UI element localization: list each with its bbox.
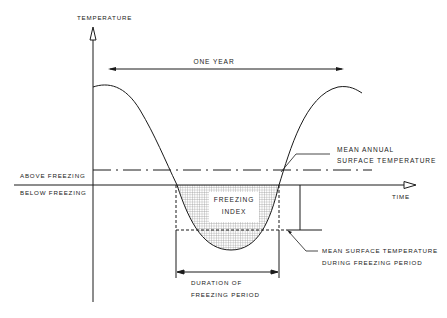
mean-freezing-bracket xyxy=(287,185,322,230)
freezing-index-label-line2: INDEX xyxy=(222,208,247,215)
mean-freezing-leader xyxy=(289,232,318,251)
below-freezing-label: BELOW FREEZING xyxy=(20,189,87,196)
one-year-label: ONE YEAR xyxy=(193,58,234,65)
above-freezing-label: ABOVE FREEZING xyxy=(20,172,86,179)
mean-annual-label-line1: MEAN ANNUAL xyxy=(337,146,394,153)
one-year-arrow xyxy=(108,67,344,71)
mean-freezing-label-line1: MEAN SURFACE TEMPERATURE xyxy=(322,247,438,254)
freezing-index-label-line1: FREEZING xyxy=(214,196,255,203)
x-axis-label: TIME xyxy=(392,193,410,200)
duration-label-line1: DURATION OF xyxy=(191,279,242,286)
y-axis-label: TEMPERATURE xyxy=(77,14,132,21)
freezing-index-diagram: TEMPERATURE ONE YEAR MEAN ANNUAL SURFACE… xyxy=(0,0,447,318)
mean-freezing-label-line2: DURING FREEZING PERIOD xyxy=(322,259,422,266)
y-axis xyxy=(90,27,96,302)
mean-annual-label-line2: SURFACE TEMPERATURE xyxy=(337,157,436,164)
duration-label-line2: FREEZING PERIOD xyxy=(191,291,260,298)
